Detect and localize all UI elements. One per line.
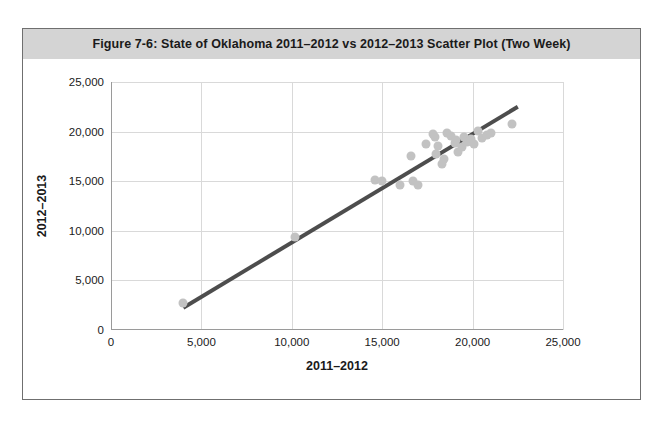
chart-area: 2012–2013 05,00010,00015,00020,00025,000…	[23, 59, 642, 400]
gridline-y-20000	[111, 132, 563, 133]
gridline-x-5000	[201, 82, 202, 330]
x-tick-label-10000: 10,000	[274, 336, 309, 348]
data-point	[291, 232, 300, 241]
gridline-y-15000	[111, 181, 563, 182]
figure-title: Figure 7-6: State of Oklahoma 2011–2012 …	[92, 37, 570, 51]
data-point	[407, 152, 416, 161]
data-point	[414, 181, 423, 190]
x-tick-label-25000: 25,000	[545, 336, 580, 348]
gridline-x-20000	[473, 82, 474, 330]
gridline-y-10000	[111, 231, 563, 232]
x-tick-label-0: 0	[108, 336, 114, 348]
y-tick-label-15000: 15,000	[69, 175, 104, 187]
data-point	[179, 299, 188, 308]
gridline-y-25000	[111, 82, 563, 83]
figure-frame: Figure 7-6: State of Oklahoma 2011–2012 …	[22, 28, 641, 400]
y-tick-label-0: 0	[98, 324, 104, 336]
plot-area: 05,00010,00015,00020,00025,000 05,00010,…	[111, 82, 563, 330]
data-point	[486, 128, 495, 137]
data-point	[439, 155, 448, 164]
data-point	[508, 119, 517, 128]
x-tick-label-15000: 15,000	[365, 336, 400, 348]
gridline-x-15000	[382, 82, 383, 330]
gridline-x-25000	[563, 82, 564, 330]
data-point	[430, 132, 439, 141]
figure-title-band: Figure 7-6: State of Oklahoma 2011–2012 …	[23, 29, 640, 59]
data-point	[396, 181, 405, 190]
x-axis-title: 2011–2012	[111, 359, 563, 373]
trendline	[111, 82, 563, 330]
gridline-y-5000	[111, 280, 563, 281]
y-tick-label-25000: 25,000	[69, 76, 104, 88]
y-tick-label-5000: 5,000	[75, 274, 104, 286]
data-point	[434, 142, 443, 151]
x-axis-line	[111, 329, 563, 330]
y-axis-title-label: 2012–2013	[35, 175, 49, 238]
y-tick-label-20000: 20,000	[69, 126, 104, 138]
x-tick-label-5000: 5,000	[187, 336, 216, 348]
data-point	[378, 177, 387, 186]
y-axis-line	[111, 82, 112, 330]
y-axis-title: 2012–2013	[33, 82, 51, 330]
y-tick-label-10000: 10,000	[69, 225, 104, 237]
gridline-x-10000	[292, 82, 293, 330]
data-point	[421, 140, 430, 149]
x-tick-label-20000: 20,000	[455, 336, 490, 348]
